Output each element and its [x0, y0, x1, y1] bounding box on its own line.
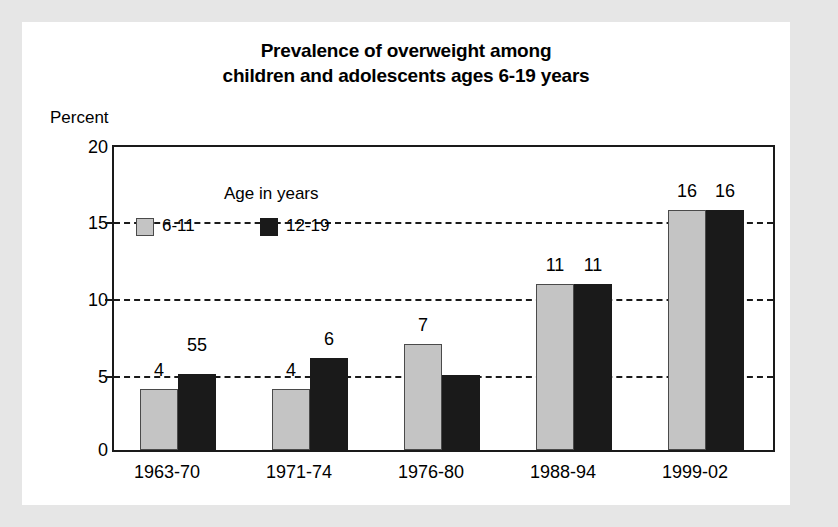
x-tick-label-1976-80: 1976-80: [371, 462, 491, 483]
bar-label-1976-80-6-11: 7: [400, 315, 446, 336]
y-tick-mark-5: [105, 376, 114, 378]
y-tick-label-15: 15: [74, 213, 108, 234]
bar-label-1999-02-12-19: 16: [702, 181, 748, 202]
y-tick-mark-15: [105, 222, 114, 224]
y-tick-label-10: 10: [74, 290, 108, 311]
y-tick-label-5: 5: [74, 367, 108, 388]
bar-1999-02-6-11: [668, 210, 706, 450]
bar-1971-74-12-19: [310, 358, 348, 450]
screenshot-root: Prevalence of overweight among children …: [0, 0, 838, 527]
y-tick-label-0: 0: [74, 440, 108, 461]
plot-area: Age in years 6-11 12-19 4 55 4 6: [112, 145, 775, 452]
bar-1999-02-12-19: [706, 210, 744, 450]
y-axis-caption: Percent: [50, 108, 109, 128]
chart-title-line-1: Prevalence of overweight among: [22, 38, 790, 63]
x-tick-label-1963-70: 1963-70: [107, 462, 227, 483]
legend: Age in years 6-11 12-19: [136, 184, 436, 246]
bar-1988-94-12-19: [574, 284, 612, 450]
bar-1971-74-6-11: [272, 389, 310, 450]
x-tick-label-1971-74: 1971-74: [239, 462, 359, 483]
bar-1988-94-6-11: [536, 284, 574, 450]
legend-swatch-black: [260, 218, 278, 236]
bar-1963-70-12-19: [178, 374, 216, 450]
legend-title: Age in years: [224, 184, 319, 204]
bar-1963-70-6-11: [140, 389, 178, 450]
bar-label-1963-70-12-19: 55: [174, 335, 220, 356]
legend-label-12-19: 12-19: [286, 216, 329, 236]
bar-label-1971-74-6-11: 4: [268, 360, 314, 381]
chart-title-line-2: children and adolescents ages 6-19 years: [22, 63, 790, 88]
legend-label-6-11: 6-11: [162, 216, 195, 236]
y-axis-tick-labels: 20 15 10 5 0: [68, 145, 108, 452]
chart-title: Prevalence of overweight among children …: [22, 38, 790, 88]
y-tick-mark-10: [105, 299, 114, 301]
x-axis-tick-labels: 1963-70 1971-74 1976-80 1988-94 1999-02: [112, 462, 775, 488]
bar-1976-80-12-19: [442, 375, 480, 450]
y-tick-label-20: 20: [74, 137, 108, 158]
chart-card: Prevalence of overweight among children …: [22, 22, 790, 505]
bar-1976-80-6-11: [404, 344, 442, 450]
bar-label-1963-70-6-11: 4: [136, 360, 182, 381]
bar-label-1988-94-12-19: 11: [570, 255, 616, 276]
bar-label-1971-74-12-19: 6: [306, 329, 352, 350]
x-tick-label-1999-02: 1999-02: [635, 462, 755, 483]
legend-swatch-light-gray: [136, 218, 154, 236]
x-tick-label-1988-94: 1988-94: [503, 462, 623, 483]
